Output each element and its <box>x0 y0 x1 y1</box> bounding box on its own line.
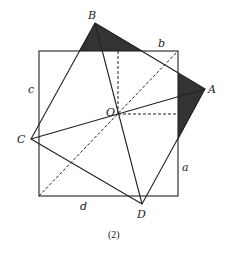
label-d: D <box>136 208 146 221</box>
label-c: C <box>17 133 26 146</box>
label-o: O <box>106 106 115 119</box>
side-label-c: c <box>28 83 34 96</box>
side-label-d: d <box>80 200 87 213</box>
geometry-diagram: B A C D O b c a d (2) <box>0 0 227 254</box>
dashed-diagonal <box>39 51 178 196</box>
side-label-a: a <box>182 161 189 174</box>
label-a: A <box>207 83 216 96</box>
side-label-b: b <box>158 37 165 50</box>
label-b: B <box>87 9 96 22</box>
shaded-region-top <box>79 23 143 51</box>
figure-caption: (2) <box>108 229 120 241</box>
